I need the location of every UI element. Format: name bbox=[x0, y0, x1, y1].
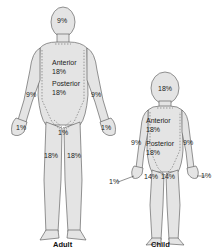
adult-genital-label: 1% bbox=[58, 129, 68, 137]
adult-head-label: 9% bbox=[57, 17, 67, 25]
child-posterior-label: Posterior bbox=[146, 140, 174, 148]
child-left-arm-label: 9% bbox=[131, 139, 141, 147]
child-figure bbox=[132, 72, 199, 245]
child-anterior-value: 18% bbox=[146, 126, 160, 134]
adult-right-leg-label: 18% bbox=[67, 152, 81, 160]
adult-left-arm-label: 9% bbox=[26, 91, 36, 99]
child-caption: Child bbox=[151, 240, 170, 249]
adult-right-arm-label: 9% bbox=[91, 91, 101, 99]
child-right-leg-label: 14% bbox=[161, 173, 175, 181]
adult-posterior-label: Posterior bbox=[52, 80, 80, 88]
child-left-hand-label: 1% bbox=[109, 178, 119, 186]
adult-anterior-value: 18% bbox=[52, 68, 66, 76]
adult-figure bbox=[12, 7, 116, 240]
adult-posterior-value: 18% bbox=[52, 89, 66, 97]
adult-left-hand-label: 1% bbox=[16, 124, 26, 132]
adult-right-hand-label: 1% bbox=[101, 124, 111, 132]
child-right-arm-label: 9% bbox=[183, 139, 193, 147]
child-anterior-label: Anterior bbox=[146, 117, 171, 125]
adult-caption: Adult bbox=[53, 240, 72, 249]
child-posterior-value: 18% bbox=[146, 149, 160, 157]
adult-anterior-label: Anterior bbox=[52, 59, 77, 67]
child-right-hand-label: 1% bbox=[201, 172, 211, 180]
child-head-label: 18% bbox=[158, 85, 172, 93]
child-left-leg-label: 14% bbox=[144, 173, 158, 181]
adult-left-leg-label: 18% bbox=[44, 152, 58, 160]
